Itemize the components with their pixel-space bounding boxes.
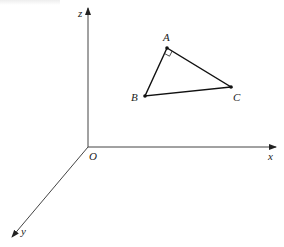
y-axis — [12, 147, 88, 237]
coordinate-diagram: z x y O A B C — [0, 0, 284, 247]
origin-label: O — [89, 150, 97, 162]
point-c — [229, 85, 233, 89]
z-axis-label: z — [77, 7, 83, 19]
point-a — [165, 46, 169, 50]
point-b-label: B — [131, 91, 138, 103]
point-c-label: C — [233, 91, 241, 103]
point-a-label: A — [162, 31, 170, 43]
x-axis-label: x — [267, 150, 273, 162]
y-axis-label: y — [20, 225, 26, 237]
point-b — [143, 94, 147, 98]
triangle-abc — [145, 48, 231, 96]
